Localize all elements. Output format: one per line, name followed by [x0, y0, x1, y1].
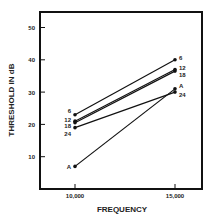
series-label-right-A: A: [179, 83, 184, 89]
series-label-left-6: 6: [68, 108, 72, 114]
series-label-left-18: 18: [64, 123, 71, 129]
data-point-A: [173, 87, 177, 91]
y-tick-label: 20: [28, 122, 35, 128]
x-tick-label: 15,000: [166, 193, 185, 199]
data-point-18: [73, 121, 77, 125]
y-tick-label: 30: [28, 90, 35, 96]
series-label-right-18: 18: [179, 72, 186, 78]
data-point-6: [73, 113, 77, 117]
x-tick-label: 10,000: [66, 193, 85, 199]
y-axis-label: THRESHOLD IN dB: [7, 63, 16, 136]
series-label-left-24: 24: [64, 131, 71, 137]
series-label-right-6: 6: [179, 55, 183, 61]
series-label-right-12: 12: [179, 65, 186, 71]
data-point-18: [173, 69, 177, 73]
series-label-left-A: A: [67, 164, 72, 170]
y-tick-label: 40: [28, 57, 35, 63]
y-tick-label: 10: [28, 154, 35, 160]
series-line-12: [75, 69, 175, 121]
series-label-right-24: 24: [179, 92, 186, 98]
series-line-6: [75, 60, 175, 115]
y-tick-label: 50: [28, 25, 35, 31]
data-point-6: [173, 58, 177, 62]
data-point-24: [173, 90, 177, 94]
series-line-A: [75, 89, 175, 167]
data-point-24: [73, 126, 77, 130]
plot-frame: [40, 12, 202, 189]
threshold-chart: THRESHOLD IN dB FREQUENCY 1020304050 10,…: [0, 0, 219, 220]
data-point-A: [73, 165, 77, 169]
x-axis-label: FREQUENCY: [97, 205, 148, 214]
